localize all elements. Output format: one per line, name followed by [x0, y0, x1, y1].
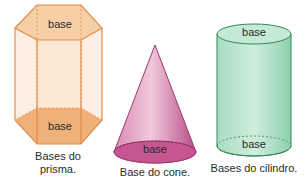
prism-caption-line2: prisma.: [22, 163, 94, 176]
prism-top-base-label: base: [42, 18, 78, 30]
cylinder: [217, 24, 291, 156]
prism-bottom-base-label: base: [42, 120, 78, 132]
cone-base-label: base: [137, 143, 173, 155]
cone-caption: Base do cone.: [110, 166, 200, 179]
prism-caption: Bases do prisma.: [22, 150, 94, 176]
cylinder-top-base-label: base: [236, 26, 272, 38]
cylinder-bottom-base-label: base: [236, 138, 272, 150]
prism-caption-line1: Bases do: [22, 150, 94, 163]
cylinder-caption: Bases do cilindro.: [203, 162, 305, 175]
